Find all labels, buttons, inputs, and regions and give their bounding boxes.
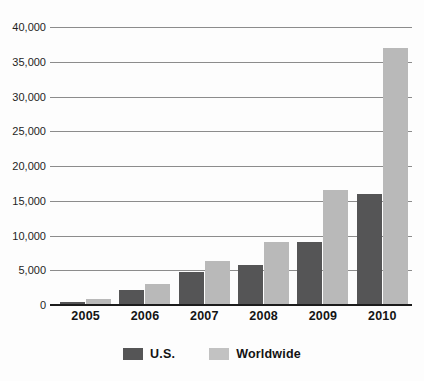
bar-group <box>354 27 410 305</box>
bar-us-2010[interactable] <box>357 194 382 305</box>
y-axis-tick-label: 15,000 <box>0 195 46 207</box>
legend-label: Worldwide <box>236 347 301 361</box>
y-axis-tick-label: 35,000 <box>0 56 46 68</box>
bar-group <box>58 27 114 305</box>
bar-worldwide-2009[interactable] <box>323 190 348 305</box>
bar-worldwide-2006[interactable] <box>145 284 170 305</box>
x-axis-label-2007: 2007 <box>176 309 232 323</box>
x-axis-label-2006: 2006 <box>117 309 173 323</box>
y-axis-tick-label: 25,000 <box>0 125 46 137</box>
legend-swatch-worldwide-icon <box>209 348 229 360</box>
bar-group <box>295 27 351 305</box>
chart-legend: U.S.Worldwide <box>0 347 424 361</box>
bar-us-2006[interactable] <box>119 290 144 305</box>
bar-worldwide-2008[interactable] <box>264 242 289 305</box>
legend-item-us[interactable]: U.S. <box>123 347 175 361</box>
bar-group <box>176 27 232 305</box>
bar-us-2009[interactable] <box>297 242 322 305</box>
legend-swatch-us-icon <box>123 348 143 360</box>
y-axis-tick-label: 5,000 <box>0 264 46 276</box>
x-axis-label-2008: 2008 <box>236 309 292 323</box>
legend-label: U.S. <box>150 347 175 361</box>
bar-groups <box>56 27 412 305</box>
bar-worldwide-2007[interactable] <box>205 261 230 305</box>
y-axis-tick-label: 40,000 <box>0 21 46 33</box>
bar-group <box>236 27 292 305</box>
plot-area: 05,00010,00015,00020,00025,00030,00035,0… <box>56 27 412 305</box>
x-axis-label-2009: 2009 <box>295 309 351 323</box>
bar-group <box>117 27 173 305</box>
bar-worldwide-2010[interactable] <box>383 48 408 305</box>
x-axis-line <box>50 304 412 306</box>
bar-chart: 05,00010,00015,00020,00025,00030,00035,0… <box>0 0 424 381</box>
x-axis-label-2005: 2005 <box>58 309 114 323</box>
y-axis-tick-label: 20,000 <box>0 160 46 172</box>
y-axis-tick-label: 10,000 <box>0 230 46 242</box>
x-axis-label-2010: 2010 <box>354 309 410 323</box>
bar-us-2008[interactable] <box>238 265 263 305</box>
y-axis-tick-label: 0 <box>0 299 46 311</box>
bar-us-2007[interactable] <box>179 272 204 305</box>
x-axis-labels: 200520062007200820092010 <box>56 309 412 323</box>
y-axis-tick-label: 30,000 <box>0 91 46 103</box>
legend-item-worldwide[interactable]: Worldwide <box>209 347 301 361</box>
